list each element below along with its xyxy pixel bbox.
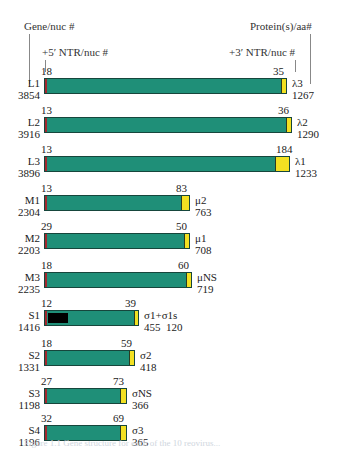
ntr3-value: 83	[176, 183, 187, 194]
protein-label: σ1+σ1s 455 120	[144, 309, 183, 333]
figure-caption: Figure 1.1 Gene structure for each of th…	[24, 438, 220, 448]
gene-label: M2 2203	[0, 232, 40, 256]
protein-name: μNS	[197, 271, 217, 283]
ntr3-value: 59	[121, 338, 132, 349]
ntr3-header: +3′ NTR/nuc #	[229, 46, 295, 58]
gene-bar	[44, 195, 190, 211]
ntr5-segment	[45, 157, 47, 171]
protein-name: λ1	[295, 155, 317, 167]
ntr5-value: 18	[41, 338, 52, 349]
protein-label: λ2 1290	[297, 116, 319, 140]
ntr3-leader-line	[295, 60, 296, 72]
protein-label: μNS 719	[197, 271, 217, 295]
gene-name: M1	[0, 194, 40, 206]
ntr5-value: 13	[41, 144, 52, 155]
gene-bar	[44, 156, 290, 172]
gene-name: M3	[0, 271, 40, 283]
ntr5-value: 13	[41, 183, 52, 194]
gene-name: S3	[0, 387, 40, 399]
gene-name: L2	[0, 116, 40, 128]
ntr5-segment	[45, 118, 47, 132]
ntr5-value: 12	[41, 298, 52, 309]
ntr5-segment	[45, 79, 47, 93]
protein-name: σ1+σ1s	[144, 309, 183, 321]
protein-aa-length: 418	[140, 361, 157, 373]
ntr3-value: 50	[176, 221, 187, 232]
ntr5-segment	[45, 389, 47, 403]
protein-label: σNS 366	[132, 387, 152, 411]
ntr3-value: 60	[178, 260, 189, 271]
gene-bar	[44, 78, 287, 94]
gene-name: S4	[0, 424, 40, 436]
gene-name: M2	[0, 232, 40, 244]
ntr5-segment	[45, 311, 47, 325]
protein-name: λ2	[297, 116, 319, 128]
protein-aa-length: 708	[195, 244, 212, 256]
ntr3-value: 36	[278, 105, 289, 116]
gene-bar	[44, 350, 135, 366]
ntr5-value: 13	[41, 105, 52, 116]
protein-aa-length: 455 120	[144, 321, 183, 333]
gene-nuc-length: 3916	[0, 128, 40, 140]
gene-nuc-length: 1416	[0, 321, 40, 333]
ntr5-segment	[45, 273, 47, 287]
protein-name: μ2	[195, 194, 212, 206]
gene-label: S3 1198	[0, 387, 40, 411]
ntr5-segment	[45, 234, 47, 248]
protein-header: Protein(s)/aa#	[250, 20, 312, 32]
gene-nuc-length: 2203	[0, 244, 40, 256]
ntr5-value: 18	[41, 66, 52, 77]
ntr5-header: +5′ NTR/nuc #	[42, 46, 108, 58]
ntr5-value: 29	[41, 221, 52, 232]
ntr5-value: 18	[41, 260, 52, 271]
protein-aa-length: 1267	[292, 89, 314, 101]
gene-nuc-length: 2304	[0, 206, 40, 218]
gene-name: L3	[0, 155, 40, 167]
gene-label: L2 3916	[0, 116, 40, 140]
ntr5-segment	[45, 196, 47, 210]
protein-aa-length: 763	[195, 206, 212, 218]
protein-aa-length: 1233	[295, 167, 317, 179]
gene-bar	[44, 233, 190, 249]
ntr3-segment	[184, 234, 189, 248]
gene-name: S1	[0, 309, 40, 321]
protein-aa-length: 1290	[297, 128, 319, 140]
gene-label: M1 2304	[0, 194, 40, 218]
ntr3-value: 39	[125, 298, 136, 309]
ntr3-segment	[281, 79, 286, 93]
protein-aa-length: 719	[197, 283, 217, 295]
protein-name: λ3	[292, 77, 314, 89]
protein-label: μ2 763	[195, 194, 212, 218]
gene-nuc-length: 1198	[0, 399, 40, 411]
gene-bar	[44, 388, 127, 404]
gene-label: M3 2235	[0, 271, 40, 295]
ntr5-value: 27	[41, 376, 52, 387]
protein-aa-length: 366	[132, 399, 152, 411]
gene-nuc-length: 1331	[0, 361, 40, 373]
protein-name: σ3	[132, 424, 149, 436]
s1-overlap-orf	[48, 313, 68, 323]
gene-bar	[44, 117, 292, 133]
ntr3-segment	[186, 273, 191, 287]
gene-name: L1	[0, 77, 40, 89]
gene-name: S2	[0, 349, 40, 361]
ntr3-value: 35	[273, 66, 284, 77]
protein-name: σNS	[132, 387, 152, 399]
gene-nuc-header: Gene/nuc #	[24, 20, 74, 32]
gene-label: S1 1416	[0, 309, 40, 333]
ntr5-value: 32	[41, 413, 52, 424]
ntr3-value: 184	[276, 144, 293, 155]
gene-label: S2 1331	[0, 349, 40, 373]
ntr3-segment	[129, 351, 134, 365]
ntr3-segment	[120, 389, 126, 403]
protein-label: λ1 1233	[295, 155, 317, 179]
protein-label: σ2 418	[140, 349, 157, 373]
protein-name: μ1	[195, 232, 212, 244]
ntr5-segment	[45, 351, 47, 365]
ntr3-segment	[286, 118, 291, 132]
gene-label: L3 3896	[0, 155, 40, 179]
gene-bar	[44, 310, 139, 326]
protein-label: μ1 708	[195, 232, 212, 256]
protein-name: σ2	[140, 349, 157, 361]
ntr3-value: 73	[113, 376, 124, 387]
